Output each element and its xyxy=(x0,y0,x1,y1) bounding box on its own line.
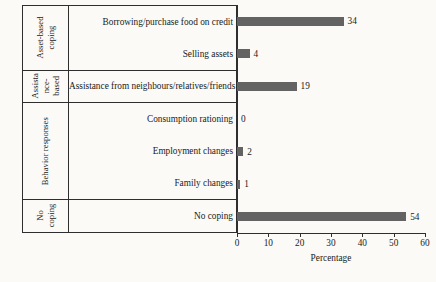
bar-row: 54 xyxy=(237,211,419,223)
x-axis-tick-label: 0 xyxy=(235,238,240,248)
bar-chart-figure: Asset-basedcopingBorrowing/purchase food… xyxy=(0,0,436,282)
x-axis-tick-label: 30 xyxy=(326,238,335,248)
bar-value-label: 34 xyxy=(348,16,357,26)
x-axis-tick xyxy=(425,233,426,237)
bar-row: 34 xyxy=(237,15,357,27)
group-rows: Borrowing/purchase food on creditSelling… xyxy=(69,6,236,70)
category-group: NocopingNo coping xyxy=(23,200,236,232)
group-label: Behavior responses xyxy=(23,103,69,199)
x-axis-tick-label: 40 xyxy=(358,238,367,248)
bar xyxy=(237,17,344,26)
group-label-line: Assista xyxy=(30,74,41,99)
bar-value-label: 19 xyxy=(301,81,310,91)
bar-row: 4 xyxy=(237,48,258,60)
category-label-table: Asset-basedcopingBorrowing/purchase food… xyxy=(22,5,237,233)
category-label-row: Employment changes xyxy=(69,135,236,167)
group-label-line: nce- xyxy=(40,74,51,99)
bar xyxy=(237,180,240,189)
bar xyxy=(237,49,250,58)
category-label-row: No coping xyxy=(69,200,236,232)
x-axis-tick xyxy=(331,233,332,237)
bar xyxy=(237,212,406,221)
x-axis-tick xyxy=(362,233,363,237)
group-label: Nocoping xyxy=(23,200,69,232)
bar-row: 1 xyxy=(237,178,249,190)
x-axis-tick-label: 20 xyxy=(295,238,304,248)
bar-row: 0 xyxy=(237,113,246,125)
category-group: Assistance-basedAssistance from neighbou… xyxy=(23,71,236,103)
group-rows: Consumption rationingEmployment changesF… xyxy=(69,103,236,199)
bar xyxy=(237,82,297,91)
bar-value-label: 1 xyxy=(244,179,249,189)
bar-row: 19 xyxy=(237,80,310,92)
bar xyxy=(237,147,243,156)
group-label-line: Asset-based xyxy=(35,17,46,59)
x-axis-tick-label: 50 xyxy=(389,238,398,248)
category-label-row: Family changes xyxy=(69,167,236,199)
group-label-line: coping xyxy=(46,17,57,59)
group-label: Asset-basedcoping xyxy=(23,6,69,70)
category-label-row: Borrowing/purchase food on credit xyxy=(69,6,236,38)
category-group: Asset-basedcopingBorrowing/purchase food… xyxy=(23,6,236,71)
bar-value-label: 2 xyxy=(247,147,252,157)
x-axis-tick-label: 60 xyxy=(420,238,429,248)
x-axis-tick xyxy=(237,233,238,237)
bar-value-label: 0 xyxy=(241,114,246,124)
bar-row: 2 xyxy=(237,146,252,158)
group-label: Assistance-based xyxy=(23,71,69,102)
group-rows: No coping xyxy=(69,200,236,232)
plot-area: 3441902154 xyxy=(237,5,425,233)
category-label-row: Selling assets xyxy=(69,38,236,70)
group-label-line: coping xyxy=(45,204,56,228)
x-axis-tick-label: 10 xyxy=(264,238,273,248)
x-axis-tick xyxy=(268,233,269,237)
group-label-line: Behavior responses xyxy=(40,117,51,185)
group-label-line: No xyxy=(35,204,46,228)
category-label-row: Assistance from neighbours/relatives/fri… xyxy=(69,71,238,102)
x-axis-tick xyxy=(300,233,301,237)
bar-value-label: 4 xyxy=(254,49,259,59)
x-axis-tick xyxy=(394,233,395,237)
bar-value-label: 54 xyxy=(410,212,419,222)
category-label-row: Consumption rationing xyxy=(69,103,236,135)
group-label-line: based xyxy=(51,74,62,99)
group-rows: Assistance from neighbours/relatives/fri… xyxy=(69,71,238,102)
category-group: Behavior responsesConsumption rationingE… xyxy=(23,103,236,200)
x-axis-title: Percentage xyxy=(237,253,425,263)
